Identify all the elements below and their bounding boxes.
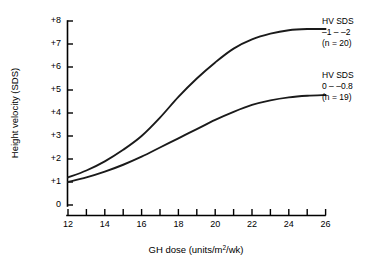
chart-plot-area: +8 +7 +6 +5 +4 +3 +2 +1 0 [0,0,366,265]
y-tick-label: +2 [51,153,61,163]
x-tick-label: 14 [100,219,110,229]
legend-range: 0 – –0.8 [322,81,354,92]
y-tick-label: +5 [51,84,61,94]
legend-entry-hv-sds-0-minus08: HV SDS 0 – –0.8 (n = 19) [322,70,354,103]
x-axis-tick-labels: 12 14 16 18 20 22 24 26 [63,219,331,229]
y-axis-title: Height velocity (SDS) [9,68,20,158]
x-tick-label: 26 [321,219,331,229]
legend-entry-hv-sds-minus1-minus2: HV SDS –1 – –2 (n = 20) [322,16,354,49]
y-tick-label: +4 [51,107,61,117]
x-tick-label: 12 [63,219,73,229]
legend-title: HV SDS [322,70,354,81]
legend-title: HV SDS [322,16,354,27]
x-tick-label: 24 [284,219,294,229]
y-tick-label: +6 [51,61,61,71]
legend-range: –1 – –2 [322,27,354,38]
x-axis-title: GH dose (units/m2/wk) [149,244,244,256]
y-tick-label: +7 [51,38,61,48]
series-line-hv-sds-minus1-minus2 [68,29,326,177]
x-tick-label: 18 [173,219,183,229]
x-tick-label: 16 [137,219,147,229]
series-line-hv-sds-0-minus08 [68,95,326,182]
x-axis-ticks [68,209,326,216]
chart-figure: +8 +7 +6 +5 +4 +3 +2 +1 0 [0,0,366,265]
legend-count: (n = 20) [322,38,354,49]
y-tick-label: 0 [56,199,61,209]
y-tick-label: +3 [51,130,61,140]
y-tick-label: +8 [51,15,61,25]
y-tick-label: +1 [51,176,61,186]
legend-count: (n = 19) [322,92,354,103]
y-axis-tick-labels: +8 +7 +6 +5 +4 +3 +2 +1 0 [51,15,61,209]
x-tick-label: 22 [247,219,257,229]
x-tick-label: 20 [210,219,220,229]
